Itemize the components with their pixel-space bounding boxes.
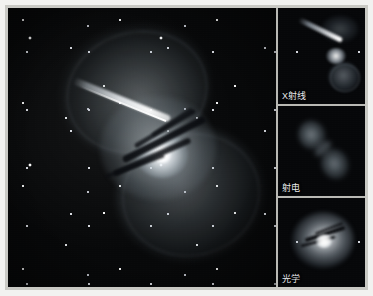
astronomy-composite-figure: X射线 射电 bbox=[0, 0, 373, 296]
panel-radio[interactable]: 射电 bbox=[278, 106, 365, 196]
side-panel-column: X射线 射电 bbox=[278, 8, 365, 287]
panel-label-radio: 射电 bbox=[282, 183, 300, 194]
optical-core bbox=[316, 234, 332, 248]
panel-divider-radio-optical bbox=[278, 196, 365, 198]
panel-optical[interactable]: 光学 bbox=[278, 198, 365, 287]
panel-label-optical: 光学 bbox=[282, 274, 300, 285]
panel-divider-xray-radio bbox=[278, 104, 365, 106]
panel-xray[interactable]: X射线 bbox=[278, 8, 365, 104]
image-plate-inner: X射线 射电 bbox=[8, 8, 365, 287]
image-plate-frame: X射线 射电 bbox=[5, 5, 368, 290]
xray-southern-lobe-rim bbox=[330, 64, 360, 92]
main-composite-panel[interactable] bbox=[8, 8, 276, 287]
panel-label-xray: X射线 bbox=[282, 91, 307, 102]
